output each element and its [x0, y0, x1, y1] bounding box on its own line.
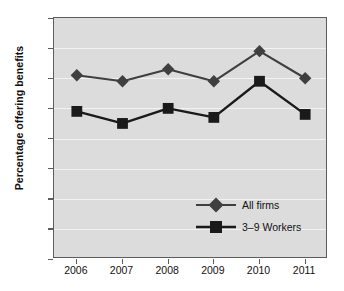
y-axis-tick [48, 18, 53, 19]
legend-label-3-9-workers: 3–9 Workers [242, 221, 301, 233]
data-point-marker [163, 103, 174, 114]
legend-item-all-firms: All firms [194, 194, 324, 216]
y-axis-tick [48, 78, 53, 79]
data-point-marker [253, 45, 265, 57]
series-all-firms [71, 45, 312, 88]
series-line [77, 51, 305, 81]
data-point-marker [162, 63, 174, 75]
y-axis-title: Percentage offering benefits [13, 3, 25, 233]
y-axis-tick [48, 48, 53, 49]
data-point-marker [208, 112, 219, 123]
legend-item-3-9-workers: 3–9 Workers [194, 216, 324, 238]
data-point-marker [300, 109, 311, 120]
x-axis-tick [213, 259, 214, 264]
x-axis-tick [122, 259, 123, 264]
y-axis-tick [48, 259, 53, 260]
data-point-marker [71, 69, 83, 81]
x-axis-tick-label: 2011 [274, 264, 334, 276]
chart-figure: Percentage offering benefits 01020304050… [0, 0, 344, 291]
data-point-marker [116, 75, 128, 87]
diamond-marker-icon [194, 196, 238, 214]
chart-legend: All firms 3–9 Workers [194, 194, 324, 238]
series-line [77, 81, 305, 123]
x-axis-tick [259, 259, 260, 264]
y-axis-tick [48, 228, 53, 229]
x-axis-tick [305, 259, 306, 264]
series-3-9-workers [71, 76, 310, 129]
square-marker-icon [194, 218, 238, 236]
data-point-marker [117, 118, 128, 129]
plot-area: All firms 3–9 Workers [53, 17, 327, 258]
y-axis-tick [48, 138, 53, 139]
x-axis-tick [76, 259, 77, 264]
legend-label-all-firms: All firms [242, 199, 279, 211]
data-point-marker [71, 106, 82, 117]
data-point-marker [254, 76, 265, 87]
y-axis-tick [48, 198, 53, 199]
data-point-marker [299, 72, 311, 84]
y-axis-tick [48, 168, 53, 169]
data-point-marker [208, 75, 220, 87]
y-axis-tick [48, 108, 53, 109]
x-axis-tick [168, 259, 169, 264]
